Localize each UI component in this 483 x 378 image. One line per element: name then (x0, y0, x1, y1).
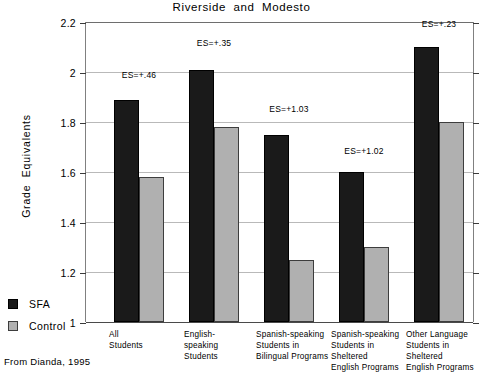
chart-figure: Riverside and Modesto Grade Equivalents … (0, 0, 483, 378)
bar-sfa-3[interactable] (339, 172, 364, 322)
ytick-mark-1.2 (80, 273, 86, 274)
ytick-mark-right-1.8 (473, 123, 479, 124)
ytick-label-1.6: 1.6 (61, 167, 77, 179)
es-label-1: ES=+.35 (197, 38, 231, 48)
ytick-mark-2.0 (80, 73, 86, 74)
gridline-1.0-baseline: 1 (86, 322, 473, 323)
legend-label-sfa: SFA (29, 298, 50, 310)
legend-label-control: Control (29, 320, 66, 332)
ytick-mark-1.4 (80, 223, 86, 224)
ytick-label-2.2: 2.2 (61, 17, 77, 29)
ytick-label-1.8: 1.8 (61, 117, 77, 129)
xtick-label-0: All Students (109, 329, 143, 351)
legend-item-control[interactable]: Control (8, 315, 66, 337)
ytick-label-2.0: 2 (70, 67, 76, 79)
legend-swatch-control-icon (8, 321, 18, 331)
legend-item-sfa[interactable]: SFA (8, 293, 66, 315)
es-label-4: ES=+.23 (422, 19, 456, 29)
xtick-label-2: Spanish-speaking Students in Bilingual P… (256, 329, 328, 362)
es-label-3: ES=+1.02 (344, 146, 383, 156)
es-label-2: ES=+1.03 (269, 104, 308, 114)
ytick-mark-1.6 (80, 173, 86, 174)
gridline-2.2: 2.2 (86, 22, 473, 23)
xtick-label-3: Spanish-speaking Students in Sheltered E… (331, 329, 399, 373)
bar-sfa-2[interactable] (264, 135, 289, 323)
bar-sfa-1[interactable] (189, 70, 214, 323)
chart-legend: SFA Control (8, 293, 66, 337)
ytick-mark-1.8 (80, 123, 86, 124)
ytick-mark-right-2.2 (473, 23, 479, 24)
bar-sfa-4[interactable] (414, 47, 439, 322)
ytick-label-1.2: 1.2 (61, 267, 77, 279)
bar-sfa-0[interactable] (114, 100, 139, 323)
xtick-label-4: Other Language Students in Sheltered Eng… (406, 329, 474, 373)
ytick-label-1.4: 1.4 (61, 217, 77, 229)
ytick-label-1.0: 1 (70, 317, 76, 329)
chart-title: Riverside and Modesto (0, 1, 483, 13)
bar-control-4[interactable] (439, 122, 464, 322)
plot-area: 2.2 2 1.8 1.6 1.4 1.2 (85, 22, 474, 322)
ytick-mark-right-2.0 (473, 73, 479, 74)
ytick-mark-right-1.6 (473, 173, 479, 174)
ytick-mark-right-1.4 (473, 223, 479, 224)
legend-swatch-sfa-icon (8, 299, 18, 309)
xtick-label-1: English- speaking Students (184, 329, 218, 362)
ytick-mark-2.2 (80, 23, 86, 24)
source-note: From Dianda, 1995 (4, 356, 90, 367)
es-label-0: ES=+.46 (122, 70, 156, 80)
ytick-mark-1.0 (80, 323, 86, 324)
bar-control-1[interactable] (214, 127, 239, 322)
ytick-mark-right-1.2 (473, 273, 479, 274)
bar-control-3[interactable] (364, 247, 389, 322)
bar-control-2[interactable] (289, 260, 314, 323)
y-axis-label: Grade Equivalents (20, 91, 32, 241)
bar-control-0[interactable] (139, 177, 164, 322)
ytick-mark-right-1.0 (473, 323, 479, 324)
